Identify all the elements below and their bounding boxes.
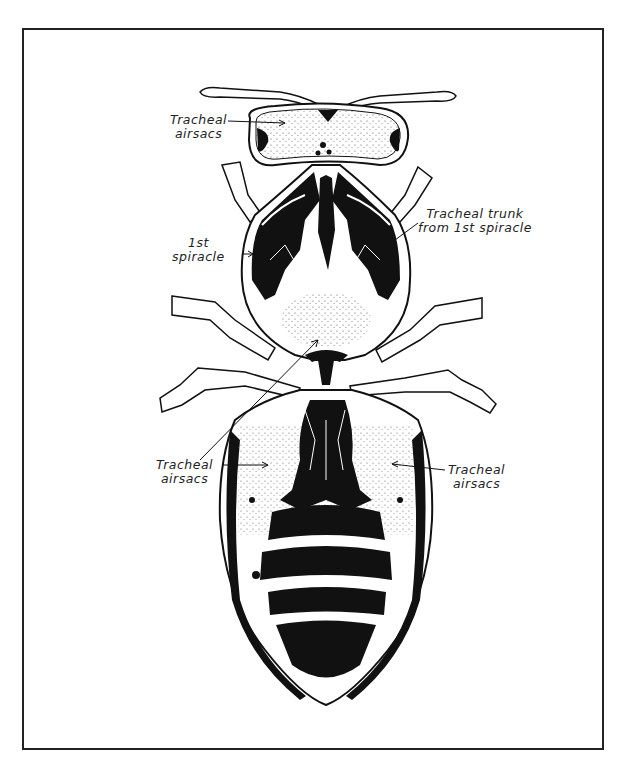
label-left-tracheal-airsacs: Tracheal airsacs	[156, 458, 213, 486]
label-tracheal-trunk: Tracheal trunk from 1st spiracle	[418, 207, 532, 235]
head	[249, 103, 408, 165]
abdomen	[220, 390, 432, 705]
anatomical-diagram: Tracheal airsacs Tracheal trunk from 1st…	[0, 0, 632, 776]
label-head-tracheal-airsacs: Tracheal airsacs	[170, 113, 227, 141]
label-first-spiracle: 1st spiracle	[172, 236, 225, 264]
insect-drawing	[0, 0, 632, 776]
label-right-tracheal-airsacs: Tracheal airsacs	[448, 463, 505, 491]
